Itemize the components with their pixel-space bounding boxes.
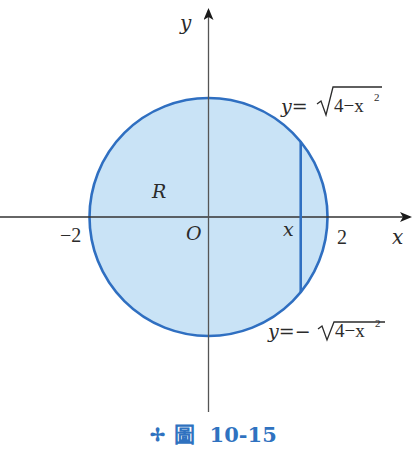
y-axis-label: y bbox=[179, 11, 192, 35]
lower-curve-prefix: y=− bbox=[267, 320, 311, 342]
region-label: R bbox=[151, 180, 166, 202]
upper-curve-exponent: 2 bbox=[374, 91, 380, 103]
lower-curve-radicand: 4−x bbox=[335, 320, 365, 341]
upper-curve-formula: y= 4−x 2 bbox=[280, 87, 382, 117]
figure-caption: 圖 10-15 bbox=[174, 422, 277, 447]
tick-label-pos-two: 2 bbox=[337, 226, 347, 248]
upper-curve-prefix: y= bbox=[280, 95, 308, 117]
origin-label: O bbox=[186, 222, 202, 244]
x-axis-label: x bbox=[392, 225, 403, 249]
lower-curve-formula: y=− 4−x 2 bbox=[267, 317, 385, 342]
slice-x-label: x bbox=[283, 218, 294, 240]
upper-curve-radicand: 4−x bbox=[334, 95, 364, 116]
tick-label-neg-two: −2 bbox=[60, 224, 81, 246]
figure-canvas: y x O −2 2 x R y= 4−x 2 y=− 4−x 2 ✢ 圖 10… bbox=[0, 0, 420, 455]
lower-curve-exponent: 2 bbox=[375, 317, 381, 329]
caption-marker: ✢ bbox=[150, 424, 165, 445]
